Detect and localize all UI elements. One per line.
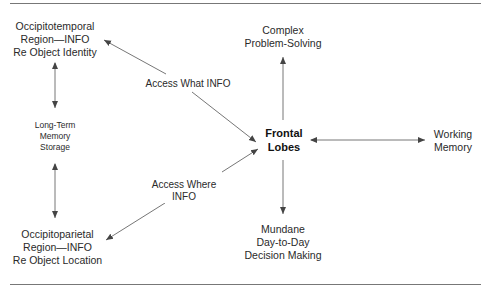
edge-label-access-where: Access Where INFO [146, 179, 222, 203]
node-line: Occipitoparietal [10, 228, 105, 241]
node-frontal-lobes: Frontal Lobes [258, 126, 310, 154]
edge-access-what-lower [192, 92, 256, 142]
node-line: Region—INFO [10, 33, 100, 46]
node-occipitoparietal: Occipitoparietal Region—INFO Re Object L… [10, 228, 105, 267]
node-long-term-memory: Long-Term Memory Storage [25, 120, 85, 153]
node-mundane-decision-making: Mundane Day-to-Day Decision Making [238, 223, 328, 262]
edge-access-where-lower [106, 203, 165, 240]
edge-access-where-upper [222, 149, 258, 172]
node-line: Decision Making [238, 249, 328, 262]
node-line: Problem-Solving [243, 37, 323, 50]
node-line: Memory [25, 131, 85, 142]
node-line: Region—INFO [10, 241, 105, 254]
node-line: Frontal [258, 126, 310, 140]
edge-label-line: INFO [147, 191, 221, 203]
node-line: Mundane [238, 223, 328, 236]
node-line: Lobes [258, 140, 310, 154]
node-line: Occipitotemporal [10, 20, 100, 33]
node-line: Memory [428, 141, 478, 154]
node-line: Day-to-Day [238, 236, 328, 249]
edge-label-access-what: Access What INFO [142, 78, 234, 90]
edge-label-line: Access Where [147, 179, 221, 191]
edge-access-what-upper [104, 40, 166, 74]
node-line: Complex [243, 24, 323, 37]
node-line: Storage [25, 142, 85, 153]
node-line: Re Object Identity [10, 46, 100, 59]
node-line: Working [428, 128, 478, 141]
node-complex-problem-solving: Complex Problem-Solving [243, 24, 323, 50]
node-occipitotemporal: Occipitotemporal Region—INFO Re Object I… [10, 20, 100, 59]
node-line: Re Object Location [10, 254, 105, 267]
node-line: Long-Term [25, 120, 85, 131]
node-working-memory: Working Memory [428, 128, 478, 154]
